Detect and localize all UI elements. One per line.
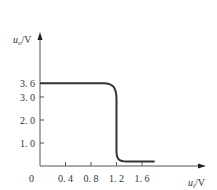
x-tick-label: 1. 2 <box>109 173 124 184</box>
transfer-characteristic-chart: uo/V ui/V 0 0. 40. 81. 21. 6 1. 02. 03. … <box>0 0 217 190</box>
x-tick-label: 0. 4 <box>58 173 73 184</box>
y-tick-label: 3. 6 <box>20 78 35 89</box>
transfer-curve <box>40 83 155 161</box>
x-ticks: 0. 40. 81. 21. 6 <box>58 162 150 184</box>
y-tick-label: 1. 0 <box>20 138 35 149</box>
x-tick-label: 0. 8 <box>84 173 99 184</box>
y-tick-label: 2. 0 <box>20 115 35 126</box>
origin-label: 0 <box>29 173 34 184</box>
x-tick-label: 1. 6 <box>135 173 150 184</box>
y-axis-label: uo/V <box>13 34 32 47</box>
y-tick-label: 3. 0 <box>20 92 35 103</box>
x-axis-label: ui/V <box>188 177 206 190</box>
